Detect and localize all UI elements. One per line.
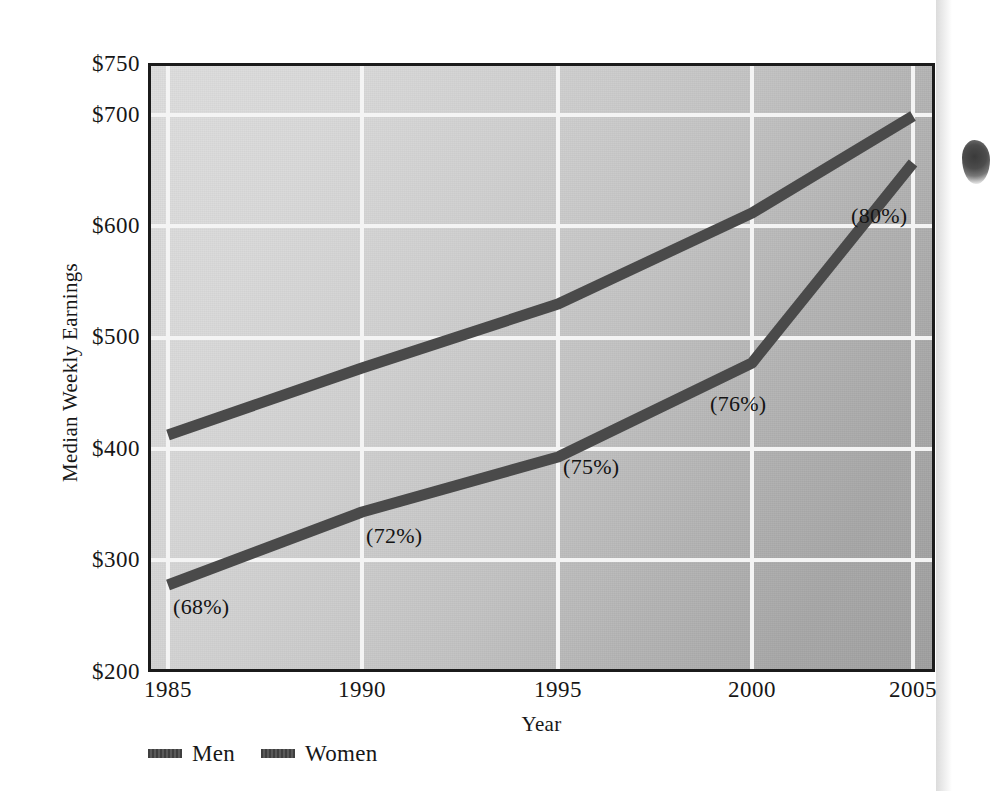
- plot-canvas: [151, 66, 932, 669]
- y-tick-300: $300: [48, 548, 140, 571]
- legend-label-women: Women: [305, 742, 377, 765]
- y-tick-750: $750: [48, 52, 140, 75]
- x-axis-title: Year: [148, 712, 935, 737]
- annotation-1995: (75%): [563, 456, 619, 478]
- legend-item-men[interactable]: Men: [148, 742, 235, 765]
- scan-edge-shadow: [936, 0, 952, 791]
- chart-figure: (68%) (72%) (75%) (76%) (80%) $750 $700 …: [0, 0, 1000, 791]
- annotation-2000: (76%): [710, 393, 766, 415]
- x-tick-1985: 1985: [108, 678, 228, 701]
- gridlines-horizontal: [151, 115, 932, 560]
- series-line-men: [168, 116, 913, 435]
- annotation-1990: (72%): [366, 525, 422, 547]
- legend-item-women[interactable]: Women: [261, 742, 377, 765]
- x-tick-1990: 1990: [302, 678, 422, 701]
- scan-artifact-blob: [962, 140, 990, 184]
- chart-legend: Men Women: [148, 742, 378, 765]
- annotation-1985: (68%): [173, 596, 229, 618]
- legend-swatch-women-icon: [261, 749, 295, 758]
- plot-area: (68%) (72%) (75%) (76%) (80%): [148, 63, 935, 672]
- y-tick-700: $700: [48, 103, 140, 126]
- x-tick-1995: 1995: [498, 678, 618, 701]
- y-axis-title: Median Weekly Earnings: [58, 208, 83, 538]
- annotation-2005: (80%): [851, 205, 907, 227]
- x-tick-2000: 2000: [692, 678, 812, 701]
- y-axis-tick-labels: $750 $700 $600 $500 $400 $300 $200: [40, 0, 140, 791]
- legend-label-men: Men: [192, 742, 235, 765]
- x-tick-2005: 2005: [853, 678, 973, 701]
- gridlines-vertical: [168, 66, 913, 669]
- legend-swatch-men-icon: [148, 749, 182, 758]
